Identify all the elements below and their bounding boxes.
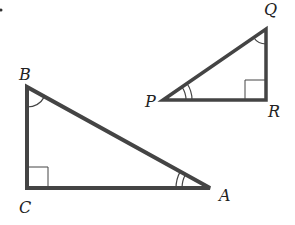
angle-arc-b xyxy=(27,97,45,107)
angle-arc-p-outer xyxy=(187,84,192,101)
dot-mark xyxy=(0,9,3,12)
triangle-pqr xyxy=(163,29,266,100)
right-angle-mark-c xyxy=(27,167,48,188)
triangle-pqr-outline xyxy=(163,29,266,100)
angle-arc-q xyxy=(254,38,266,45)
angle-arc-a-inner xyxy=(176,172,180,188)
vertex-label-b: B xyxy=(18,65,31,84)
angle-arc-a-outer xyxy=(182,175,186,189)
triangle-abc-outline xyxy=(27,87,210,188)
vertex-label-c: C xyxy=(19,198,31,217)
angle-arc-p-inner xyxy=(182,87,186,100)
right-angle-mark-r xyxy=(245,80,266,100)
vertex-label-q: Q xyxy=(264,0,277,19)
vertex-label-a: A xyxy=(217,186,231,205)
vertex-label-p: P xyxy=(144,92,156,111)
vertex-label-r: R xyxy=(267,102,280,121)
similar-triangles-diagram: B C A P Q R xyxy=(0,0,295,225)
triangle-abc xyxy=(27,87,210,188)
